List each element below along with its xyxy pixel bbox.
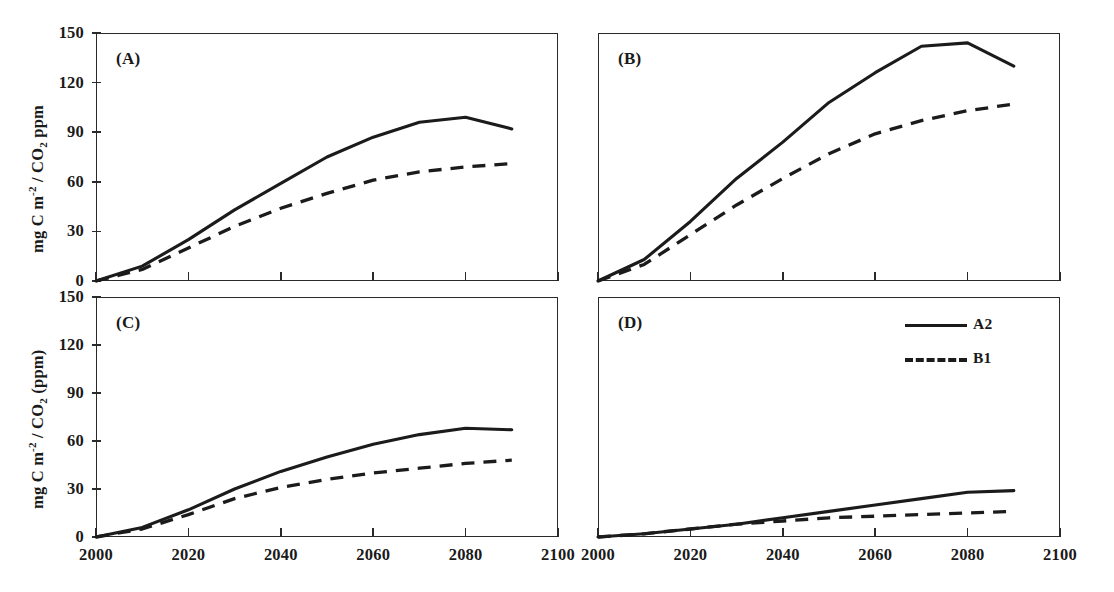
legend-label-b1: B1	[973, 349, 992, 367]
panel-d: 200020202040206020802100(D)A2B1	[0, 0, 1114, 592]
figure-canvas: 0306090120150mg C m-2 / CO2 ppm(A) (B) 0…	[0, 0, 1114, 592]
legend-label-a2: A2	[973, 315, 992, 333]
legend-item-a2[interactable]: A2	[905, 315, 1045, 337]
legend-swatch-solid-line-icon	[905, 324, 967, 327]
legend-swatch-dashed-line-icon	[905, 358, 967, 362]
legend: A2B1	[905, 315, 1045, 371]
legend-item-b1[interactable]: B1	[905, 349, 1045, 371]
